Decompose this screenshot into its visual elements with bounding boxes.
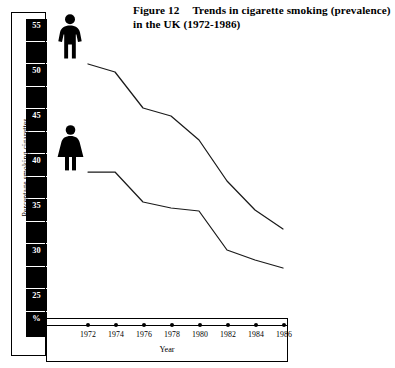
y-axis-tick-label: 35 xyxy=(26,199,47,210)
x-axis-tick-label: 1986 xyxy=(264,330,304,339)
x-axis-tick-dot xyxy=(114,323,119,328)
x-axis-tick-dot xyxy=(198,323,203,328)
x-axis-line xyxy=(47,325,287,326)
y-axis-tick-label: 50 xyxy=(26,64,47,75)
y-axis-tick-label: 25 xyxy=(26,289,47,300)
x-axis-tick-dot xyxy=(254,323,259,328)
series-line-men xyxy=(88,64,283,229)
x-axis-label: Year xyxy=(47,345,287,354)
y-axis-block xyxy=(26,222,47,243)
y-axis-tick-label: 40 xyxy=(26,154,47,165)
y-axis-tick-30: 30 xyxy=(26,244,47,266)
y-axis-tick-unit: % xyxy=(26,312,47,337)
y-axis-block xyxy=(26,42,47,63)
y-axis-frame: Percentage smoking cigarettes 5550454035… xyxy=(11,12,46,356)
figure-root: Figure 12Trends in cigarette smoking (pr… xyxy=(0,0,395,368)
y-axis-block xyxy=(26,267,47,288)
y-axis-tick-50: 50 xyxy=(26,64,47,86)
x-axis-box: 19721974197619781980198219841986 Year xyxy=(46,318,288,362)
x-axis-tick-dot xyxy=(86,323,91,328)
y-axis-tick-label: % xyxy=(26,312,47,323)
y-axis-tick-label: 30 xyxy=(26,244,47,255)
y-axis-tick-55: 55 xyxy=(26,19,47,41)
x-axis-tick-dot xyxy=(282,323,287,328)
y-axis-tick-35: 35 xyxy=(26,199,47,221)
y-axis-block xyxy=(26,87,47,108)
y-axis-block xyxy=(26,177,47,198)
x-axis-tick-dot xyxy=(142,323,147,328)
y-axis-tick-label: 55 xyxy=(26,19,47,30)
series-line-women xyxy=(88,172,283,268)
y-axis-tick-column: 55504540353025% xyxy=(26,13,47,357)
x-axis-tick-dot xyxy=(226,323,231,328)
x-axis-tick-dot xyxy=(170,323,175,328)
plot-area xyxy=(46,12,395,322)
y-axis-block xyxy=(26,132,47,153)
y-axis-tick-label: 45 xyxy=(26,109,47,120)
y-axis-tick-45: 45 xyxy=(26,109,47,131)
y-axis-tick-25: 25 xyxy=(26,289,47,311)
y-axis-tick-40: 40 xyxy=(26,154,47,176)
